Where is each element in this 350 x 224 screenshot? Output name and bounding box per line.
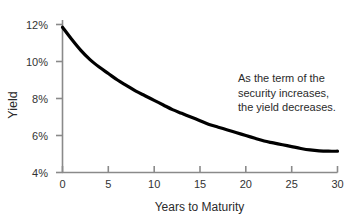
yield-curve-chart: 12% 10% 8% 6% 4% 0 5 10 15 20 25 30 Yiel… xyxy=(0,0,350,224)
annotation-line-1: As the term of the xyxy=(238,71,350,86)
y-axis-title: Yield xyxy=(6,75,20,135)
y-tick-label-10: 10% xyxy=(16,56,48,68)
annotation-line-3: the yield decreases. xyxy=(238,100,350,115)
x-tick-label-5: 5 xyxy=(88,178,128,190)
x-tick-label-30: 30 xyxy=(318,178,350,190)
x-tick-label-10: 10 xyxy=(134,178,174,190)
x-axis-title: Years to Maturity xyxy=(62,200,337,214)
x-tick-label-0: 0 xyxy=(43,178,83,190)
y-tick-label-8: 8% xyxy=(16,93,48,105)
y-tick-label-12: 12% xyxy=(16,19,48,31)
y-tick-label-4: 4% xyxy=(16,167,48,179)
x-tick-label-15: 15 xyxy=(180,178,220,190)
x-tick-label-25: 25 xyxy=(272,178,312,190)
x-axis-ticks xyxy=(63,166,338,173)
y-tick-label-6: 6% xyxy=(16,130,48,142)
chart-annotation: As the term of the security increases, t… xyxy=(238,71,350,115)
y-axis-ticks xyxy=(56,25,63,173)
annotation-line-2: security increases, xyxy=(238,86,350,101)
x-tick-label-20: 20 xyxy=(226,178,266,190)
